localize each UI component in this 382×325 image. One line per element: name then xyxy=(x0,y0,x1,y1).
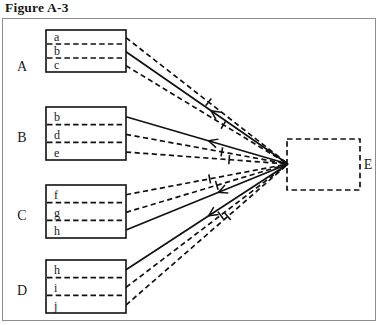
row-label-A-a: a xyxy=(54,30,60,44)
row-label-B-d: d xyxy=(54,128,60,142)
row-label-C-f: f xyxy=(54,188,58,202)
diagram-canvas: abcbdefghhij ABCDE xyxy=(0,0,382,325)
link-D-j xyxy=(126,164,288,305)
row-label-D-h: h xyxy=(54,263,60,277)
tick-A-c xyxy=(221,121,226,129)
tick-B-d xyxy=(221,147,223,156)
link-B-e xyxy=(126,152,288,164)
row-label-A-b: b xyxy=(54,44,60,58)
row-label-A-c: c xyxy=(54,58,59,72)
link-A-b xyxy=(126,52,288,164)
row-label-D-j: j xyxy=(53,299,57,313)
tick-B-e xyxy=(229,155,230,164)
row-label-B-b: b xyxy=(54,110,60,124)
arrowhead-D-h xyxy=(209,207,219,216)
link-D-i xyxy=(126,164,288,287)
links-layer xyxy=(126,38,288,305)
target-label-E: E xyxy=(364,157,373,172)
group-label-D: D xyxy=(17,283,27,298)
row-label-B-e: e xyxy=(54,146,59,160)
link-C-g xyxy=(126,164,288,212)
figure-root: Figure A-3 abcbdefghhij ABCDE xyxy=(0,0,382,325)
tick-C-f xyxy=(209,174,211,183)
tick-D-i xyxy=(218,212,224,219)
target-layer xyxy=(287,139,360,190)
link-A-a xyxy=(126,38,288,164)
group-label-C: C xyxy=(17,208,26,223)
target-box-E xyxy=(287,139,360,190)
link-B-d xyxy=(126,134,288,164)
row-label-C-g: g xyxy=(54,206,60,220)
boxes-layer: abcbdefghhij xyxy=(46,30,126,314)
group-label-A: A xyxy=(17,59,28,74)
link-C-h xyxy=(126,164,288,230)
row-label-C-h: h xyxy=(54,224,60,238)
group-label-B: B xyxy=(17,130,26,145)
